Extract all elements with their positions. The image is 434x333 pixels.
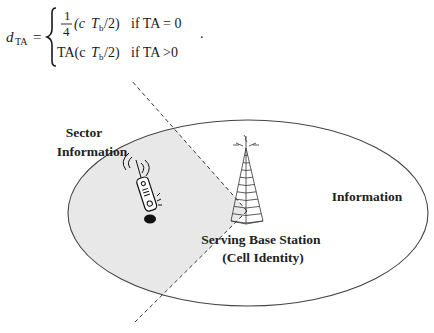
formula-terminator: . [200, 26, 204, 41]
case2-prefix: TA(c [57, 45, 85, 61]
case1-expr-close: /2) [104, 16, 120, 32]
sector-shaded-region [0, 80, 247, 333]
formula-lhs-symbol: d [6, 29, 14, 45]
case1-frac-den: 4 [63, 24, 70, 39]
sector-information-label-line1: Sector [66, 125, 103, 140]
case1-frac-num: 1 [64, 8, 71, 23]
serving-base-station-label: Serving Base Station [201, 232, 321, 247]
case1-expr-open: (c [74, 16, 86, 32]
formula-equals: = [33, 29, 41, 45]
cell-information-label: Information [332, 189, 403, 204]
formula-lhs-subscript: TA [15, 36, 28, 47]
sector-information-label-line2: Information [57, 144, 128, 159]
formula-brace [47, 8, 56, 66]
tower-rung [236, 199, 258, 200]
tower-rung [237, 192, 256, 193]
case1-condition: if TA = 0 [131, 16, 181, 31]
cell-identity-label: (Cell Identity) [222, 250, 303, 265]
case2-condition: if TA >0 [131, 45, 178, 60]
case2-expr-close: /2) [104, 45, 120, 61]
timing-advance-distance-formula: d TA = 1 4 (c T b /2) if TA = 0 . TA(c T… [0, 0, 300, 80]
tower-rung [239, 185, 255, 186]
